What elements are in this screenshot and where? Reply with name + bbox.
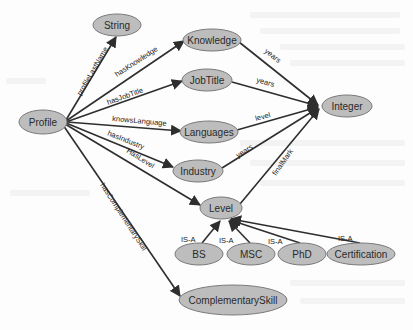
edge-bs-level: IS-A <box>181 221 220 244</box>
node-label-languages: Languages <box>184 127 234 138</box>
node-level[interactable]: Level <box>200 197 242 219</box>
node-label-knowledge: Knowledge <box>187 35 237 46</box>
edge-jobtitle-integer: years <box>232 75 318 106</box>
edge-level-integer: finalMark <box>240 109 319 204</box>
edge-certification-level: IS-A <box>231 219 360 243</box>
node-label-level: Level <box>209 203 233 214</box>
node-knowledge[interactable]: Knowledge <box>183 29 241 51</box>
node-string[interactable]: String <box>93 14 141 36</box>
edge-label-bs-isa: IS-A <box>181 235 196 244</box>
edge-label-industry-years: years <box>234 142 255 159</box>
node-label-phd: PhD <box>292 249 311 260</box>
edge-label-profilelastname: profileLastName <box>75 45 110 97</box>
node-languages[interactable]: Languages <box>180 121 238 143</box>
edge-label-knowledge-years: years <box>263 46 283 65</box>
node-label-string: String <box>104 20 130 31</box>
node-certification[interactable]: Certification <box>327 243 395 265</box>
edge-languages-integer: level <box>237 107 318 130</box>
node-jobtitle[interactable]: JobTitle <box>182 69 232 91</box>
node-label-bs: BS <box>192 249 206 260</box>
node-label-complementaryskill: ComplementarySkill <box>189 295 278 306</box>
node-phd[interactable]: PhD <box>278 243 326 265</box>
node-profile[interactable]: Profile <box>19 110 67 134</box>
node-msc[interactable]: MSC <box>227 243 275 265</box>
node-integer[interactable]: Integer <box>322 95 372 117</box>
node-label-industry: Industry <box>180 166 216 177</box>
edge-label-hascomplementaryskill: hasComplementarySkill <box>98 181 149 252</box>
node-complementaryskill[interactable]: ComplementarySkill <box>179 285 287 315</box>
edge-profile-languages: knowsLanguage <box>67 114 181 131</box>
edge-label-phd-isa: IS-A <box>268 237 283 246</box>
edge-label-jobtitle-years: years <box>255 75 275 89</box>
graph-canvas: profileLastName hasKnowledge hasJobTitle… <box>0 0 413 330</box>
node-label-jobtitle: JobTitle <box>190 75 225 86</box>
node-label-integer: Integer <box>331 101 363 112</box>
node-label-profile: Profile <box>29 117 58 128</box>
edge-profile-complementaryskill: hasComplementarySkill <box>63 125 180 296</box>
edge-label-certification-isa: IS-A <box>338 234 353 243</box>
edge-label-msc-isa: IS-A <box>219 236 234 245</box>
node-label-msc: MSC <box>240 249 262 260</box>
ontology-diagram: profileLastName hasKnowledge hasJobTitle… <box>0 0 413 330</box>
node-industry[interactable]: Industry <box>173 160 223 182</box>
node-label-certification: Certification <box>335 249 388 260</box>
node-bs[interactable]: BS <box>175 243 223 265</box>
